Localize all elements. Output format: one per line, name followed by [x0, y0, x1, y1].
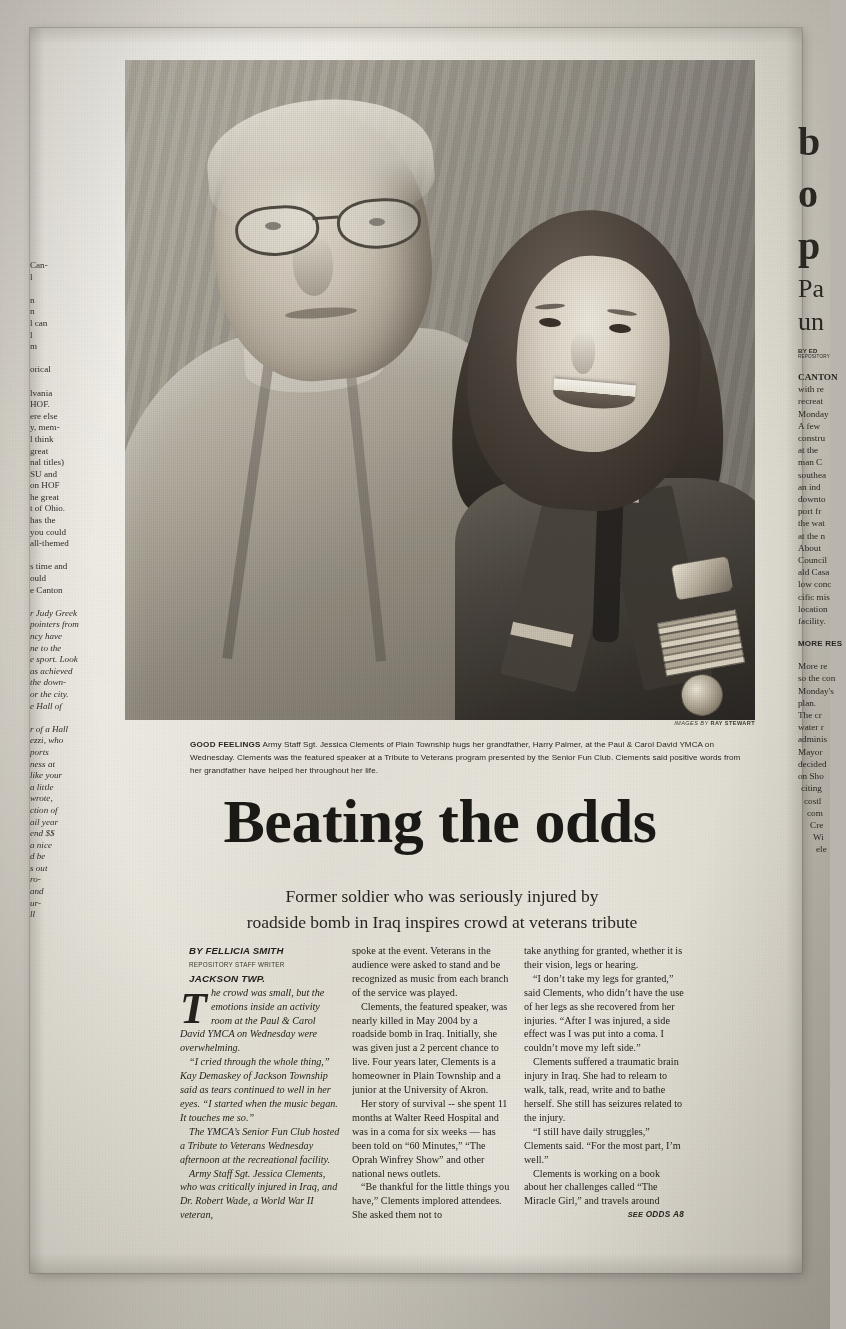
left-fragment-line: [30, 712, 102, 724]
right-fragment-body-line: southea: [798, 469, 846, 481]
caption-kicker: GOOD FEELINGS: [190, 740, 261, 749]
left-fragment-line: l can: [30, 318, 102, 330]
left-fragment-line: d be: [30, 851, 102, 863]
left-fragment-line: ness at: [30, 759, 102, 771]
left-fragment-line: a little: [30, 782, 102, 794]
right-fragment-body2-line: ele: [798, 843, 846, 855]
byline-affiliation: REPOSITORY STAFF WRITER: [180, 958, 340, 972]
left-fragment-line: HOF.: [30, 399, 102, 411]
sheet-top-shadow: [30, 28, 802, 44]
left-fragment-line: ezzi, who: [30, 735, 102, 747]
left-fragment-line: ction of: [30, 805, 102, 817]
deck-line-2: roadside bomb in Iraq inspires crowd at …: [150, 909, 734, 935]
left-fragment-line: [30, 376, 102, 388]
left-fragment-line: has the: [30, 515, 102, 527]
right-fragment-body-line: A few: [798, 420, 846, 432]
left-fragment-line: lvania: [30, 388, 102, 400]
story-column-2: spoke at the event. Veterans in the audi…: [352, 944, 512, 1280]
article-deck: Former soldier who was seriously injured…: [150, 883, 734, 935]
right-fragment-body-line: cific mis: [798, 591, 846, 603]
story-column-3: take anything for granted, whether it is…: [524, 944, 684, 1280]
jump-page: A8: [673, 1210, 684, 1219]
right-fragment-body-line: Council: [798, 554, 846, 566]
paragraph: “Be thankful for the little things you h…: [352, 1180, 512, 1222]
story-column-1: BY FELLICIA SMITH REPOSITORY STAFF WRITE…: [180, 944, 340, 1280]
left-fragment-line: ports: [30, 747, 102, 759]
left-fragment-line: l: [30, 272, 102, 284]
left-fragment-line: e Hall of: [30, 701, 102, 713]
right-fragment-body-line: the wat: [798, 517, 846, 529]
paragraph: The YMCA’s Senior Fun Club hosted a Trib…: [180, 1125, 340, 1167]
left-fragment-line: n: [30, 306, 102, 318]
right-fragment-body2-line: Monday's: [798, 685, 846, 697]
left-fragment-line: s out: [30, 863, 102, 875]
left-fragment-line: ll: [30, 909, 102, 921]
right-fragment-body-line: low conc: [798, 578, 846, 590]
right-fragment-body2-line: so the con: [798, 672, 846, 684]
left-fragment-line: orical: [30, 364, 102, 376]
newspaper-sheet: Can-l nnl canlm orical lvaniaHOF.ere els…: [30, 28, 802, 1273]
right-fragment-body2-line: adminis: [798, 733, 846, 745]
left-fragment-line: or the city.: [30, 689, 102, 701]
soldier-necktie: [592, 492, 623, 643]
paragraph: “I don’t take my legs for granted,” said…: [524, 972, 684, 1055]
page-title: Beating the odds: [125, 784, 755, 858]
right-fragment-body2-line: citing: [798, 782, 846, 794]
left-fragment-line: [30, 596, 102, 608]
left-fragment-line: t of Ohio.: [30, 503, 102, 515]
paragraph: take anything for granted, whether it is…: [524, 944, 684, 972]
paragraph: Clements, the featured speaker, was near…: [352, 1000, 512, 1097]
right-partial-body: CANTONwith rerecreatMondayA fewconstruat…: [798, 371, 846, 627]
left-fragment-line: r Judy Greek: [30, 608, 102, 620]
left-fragment-line: l: [30, 330, 102, 342]
left-fragment-line: e sport. Look: [30, 654, 102, 666]
right-partial-byline-affiliation: REPOSITORY: [798, 354, 846, 359]
soldier-nose: [571, 332, 595, 374]
left-fragment-line: ro-: [30, 874, 102, 886]
right-fragment-body2-line: costl: [798, 795, 846, 807]
left-fragment-line: ur-: [30, 898, 102, 910]
right-fragment-body-line: man C: [798, 456, 846, 468]
right-fragment-body2-line: plan.: [798, 697, 846, 709]
byline-author: BY FELLICIA SMITH: [180, 944, 340, 958]
photo-credit: IMAGES BY RAY STEWART: [125, 720, 755, 726]
right-fragment-headline-line: o: [798, 168, 846, 220]
left-fragment-line: [30, 283, 102, 295]
right-fragment-body2-line: water r: [798, 721, 846, 733]
paragraph: Her story of survival -- she spent 11 mo…: [352, 1097, 512, 1180]
left-fragment-line: pointers from: [30, 619, 102, 631]
left-fragment-line: the down-: [30, 677, 102, 689]
right-fragment-headline-line: Pa: [798, 272, 846, 305]
paragraph: “I still have daily struggles,” Clements…: [524, 1125, 684, 1167]
paragraph: Clements is working on a book about her …: [524, 1167, 684, 1209]
left-fragment-line: e Canton: [30, 585, 102, 597]
left-fragment-line: on HOF: [30, 480, 102, 492]
dateline: JACKSON TWP.: [180, 972, 340, 986]
left-fragment-line: as achieved: [30, 666, 102, 678]
right-fragment-body-line: constru: [798, 432, 846, 444]
left-fragment-line: end $$: [30, 828, 102, 840]
left-fragment-line: ail year: [30, 817, 102, 829]
right-fragment-body-line: port fr: [798, 505, 846, 517]
right-fragment-body2-line: More re: [798, 660, 846, 672]
deck-line-1: Former soldier who was seriously injured…: [150, 883, 734, 909]
photo-caption: GOOD FEELINGS Army Staff Sgt. Jessica Cl…: [190, 738, 750, 778]
left-fragment-line: r of a Hall: [30, 724, 102, 736]
left-fragment-line: Can-: [30, 260, 102, 272]
left-fragment-line: n: [30, 295, 102, 307]
right-fragment-body2-line: decided: [798, 758, 846, 770]
left-fragment-line: wrote,: [30, 793, 102, 805]
left-fragment-line: and: [30, 886, 102, 898]
jump-line[interactable]: SEE ODDS A8: [524, 1208, 684, 1222]
right-fragment-body-line: CANTON: [798, 371, 846, 383]
right-fragment-body2-line: Mayor: [798, 746, 846, 758]
left-fragment-line: a nice: [30, 840, 102, 852]
right-partial-headline: bopPaun: [798, 116, 846, 338]
left-fragment-line: l think: [30, 434, 102, 446]
paragraph: spoke at the event. Veterans in the audi…: [352, 944, 512, 1000]
right-fragment-body-line: an ind: [798, 481, 846, 493]
paragraph: “I cried through the whole thing,” Kay D…: [180, 1055, 340, 1125]
left-fragment-line: ould: [30, 573, 102, 585]
left-fragment-line: m: [30, 341, 102, 353]
